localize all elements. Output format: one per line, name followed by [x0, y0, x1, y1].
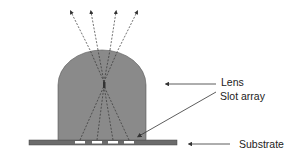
slot-array-label: Slot array — [220, 91, 265, 102]
slot — [75, 141, 85, 144]
ray-arrow-icon — [118, 12, 137, 50]
focal-point — [103, 82, 106, 88]
slot — [124, 141, 134, 144]
lens-body — [58, 50, 146, 140]
ray-arrow-icon — [110, 12, 116, 50]
substrate — [29, 140, 177, 145]
slot — [108, 141, 118, 144]
slot-array-pointer-arrow-icon — [139, 92, 216, 136]
ray-arrow-icon — [91, 12, 98, 50]
lens-label: Lens — [221, 77, 244, 88]
slot — [92, 141, 102, 144]
emitted-rays — [71, 12, 137, 50]
ray-arrow-icon — [71, 12, 90, 50]
substrate-label: Substrate — [239, 139, 284, 150]
lens-diagram — [0, 0, 295, 156]
